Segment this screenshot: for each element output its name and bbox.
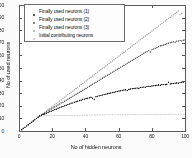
y-tick-mark <box>19 131 22 132</box>
x-tick-mark <box>85 128 86 131</box>
x-axis-title: No of hidden neurons <box>0 144 192 150</box>
x-tick-mark <box>19 5 20 8</box>
y-tick-mark <box>182 81 185 82</box>
legend-item: Finally used neurons (3) <box>28 23 122 31</box>
legend-label: Finally used neurons (2) <box>39 16 89 22</box>
y-tick-mark <box>19 43 22 44</box>
y-tick-label: 60 <box>0 53 4 58</box>
y-tick-label: 10 <box>0 116 4 121</box>
x-tick-mark <box>152 128 153 131</box>
x-tick-mark <box>52 128 53 131</box>
legend-label: Finally used neurons (1) <box>39 8 89 14</box>
y-tick-mark <box>182 118 185 119</box>
y-tick-label: 70 <box>0 40 4 45</box>
y-tick-mark <box>182 93 185 94</box>
x-tick-label: 100 <box>173 134 192 139</box>
y-tick-label: 90 <box>0 15 4 20</box>
legend-label: Finally used neurons (3) <box>39 24 89 30</box>
y-tick-label: 0 <box>0 129 4 134</box>
y-tick-mark <box>182 30 185 31</box>
y-tick-mark <box>19 30 22 31</box>
x-tick-label: 0 <box>7 134 31 139</box>
y-tick-mark <box>19 118 22 119</box>
legend-item: Finally used neurons (1) <box>28 7 122 15</box>
y-axis-title: No of used neurons <box>5 25 11 105</box>
x-tick-mark <box>185 128 186 131</box>
y-tick-label: 50 <box>0 66 4 71</box>
legend-label: Initial contributing neurons <box>39 32 93 38</box>
legend: Finally used neurons (1) Finally used ne… <box>24 4 125 42</box>
x-tick-label: 40 <box>73 134 97 139</box>
x-tick-mark <box>185 5 186 8</box>
x-tick-mark <box>119 128 120 131</box>
y-tick-mark <box>182 18 185 19</box>
x-tick-mark <box>19 128 20 131</box>
x-tick-label: 20 <box>40 134 64 139</box>
y-tick-label: 40 <box>0 78 4 83</box>
y-tick-label: 100 <box>0 3 4 8</box>
y-tick-mark <box>182 55 185 56</box>
legend-item: Initial contributing neurons <box>28 31 122 39</box>
y-tick-mark <box>19 81 22 82</box>
y-tick-mark <box>182 106 185 107</box>
y-tick-mark <box>182 131 185 132</box>
y-tick-mark <box>19 55 22 56</box>
y-tick-mark <box>182 43 185 44</box>
y-tick-label: 80 <box>0 28 4 33</box>
y-tick-mark <box>19 18 22 19</box>
legend-item: Finally used neurons (2) <box>28 15 122 23</box>
y-tick-mark <box>19 106 22 107</box>
y-tick-mark <box>19 93 22 94</box>
x-tick-label: 80 <box>140 134 164 139</box>
y-tick-label: 20 <box>0 103 4 108</box>
x-tick-label: 60 <box>107 134 131 139</box>
legend-marker-icon <box>28 26 39 44</box>
chart-figure: 0102030405060708090100 020406080100 No o… <box>0 0 192 158</box>
y-tick-label: 30 <box>0 91 4 96</box>
y-tick-mark <box>19 68 22 69</box>
x-tick-mark <box>152 5 153 8</box>
y-tick-mark <box>182 68 185 69</box>
